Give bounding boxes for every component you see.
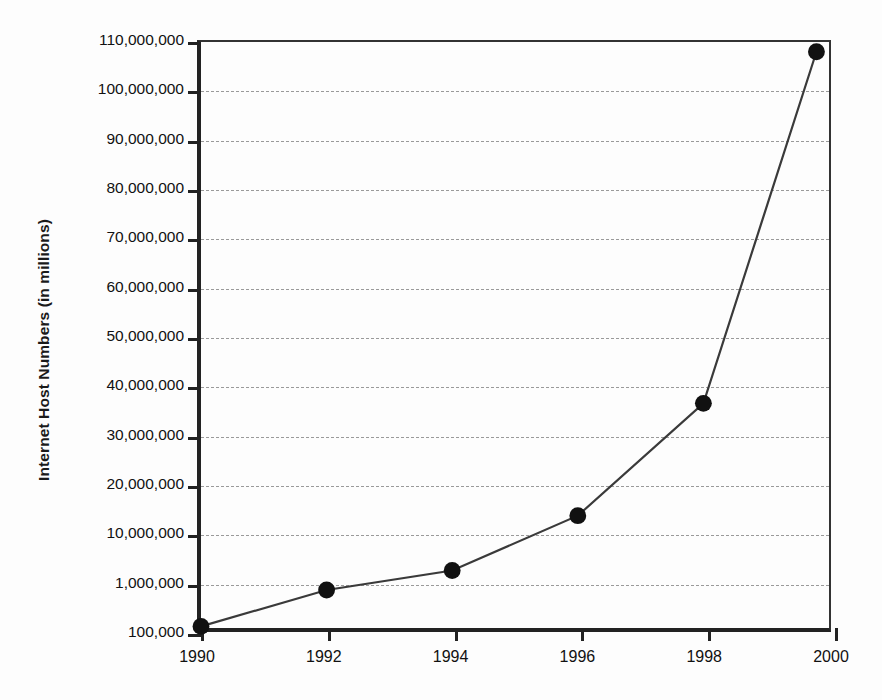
x-axis-tick bbox=[581, 628, 584, 641]
y-axis-tick-label: 30,000,000 bbox=[14, 426, 184, 444]
x-axis-tick-labels: 199019921994199619982000 bbox=[197, 648, 831, 678]
y-axis-tick-label: 90,000,000 bbox=[14, 130, 184, 148]
data-point-marker bbox=[318, 582, 335, 599]
y-axis-tick-label: 100,000,000 bbox=[14, 80, 184, 98]
y-axis-tick-label: 100,000 bbox=[14, 623, 184, 641]
y-axis-tick-labels: 110,000,000100,000,00090,000,00080,000,0… bbox=[14, 40, 184, 632]
x-axis-tick bbox=[328, 628, 331, 641]
y-axis-tick bbox=[188, 585, 201, 588]
x-axis-tick-label: 1996 bbox=[560, 648, 596, 666]
data-line bbox=[201, 52, 816, 627]
x-axis-tick bbox=[835, 628, 838, 641]
x-axis-tick-label: 2000 bbox=[813, 648, 849, 666]
data-point-marker bbox=[193, 618, 210, 635]
y-axis-tick-label: 20,000,000 bbox=[14, 475, 184, 493]
y-axis-tick-label: 80,000,000 bbox=[14, 179, 184, 197]
y-axis-tick bbox=[188, 486, 201, 489]
y-axis-tick bbox=[188, 141, 201, 144]
y-axis-tick-label: 110,000,000 bbox=[14, 31, 184, 49]
y-axis-tick bbox=[188, 239, 201, 242]
y-axis-tick-label: 70,000,000 bbox=[14, 228, 184, 246]
plot-area bbox=[201, 42, 829, 628]
x-axis-tick bbox=[708, 628, 711, 641]
y-axis-tick bbox=[188, 437, 201, 440]
y-axis-tick-label: 50,000,000 bbox=[14, 327, 184, 345]
y-axis-tick-label: 1,000,000 bbox=[14, 574, 184, 592]
y-axis-tick-label: 40,000,000 bbox=[14, 376, 184, 394]
data-point-marker bbox=[808, 43, 825, 60]
y-axis-tick-label: 10,000,000 bbox=[14, 524, 184, 542]
y-axis-tick bbox=[188, 42, 201, 45]
x-axis-tick-label: 1990 bbox=[179, 648, 215, 666]
y-axis-tick bbox=[188, 387, 201, 390]
y-axis-tick bbox=[188, 190, 201, 193]
x-axis-tick-label: 1998 bbox=[686, 648, 722, 666]
y-axis-tick bbox=[188, 535, 201, 538]
data-point-marker bbox=[444, 562, 461, 579]
chart-figure: Internet Host Numbers (in millions) 110,… bbox=[0, 0, 882, 700]
data-series bbox=[201, 42, 829, 628]
data-point-marker bbox=[695, 395, 712, 412]
data-point-marker bbox=[569, 507, 586, 524]
x-axis-tick bbox=[455, 628, 458, 641]
x-axis-tick-label: 1992 bbox=[306, 648, 342, 666]
plot-frame bbox=[197, 40, 831, 632]
y-axis-tick bbox=[188, 338, 201, 341]
y-axis-tick bbox=[188, 91, 201, 94]
y-axis-tick-label: 60,000,000 bbox=[14, 278, 184, 296]
x-axis-tick-label: 1994 bbox=[433, 648, 469, 666]
y-axis-tick bbox=[188, 289, 201, 292]
